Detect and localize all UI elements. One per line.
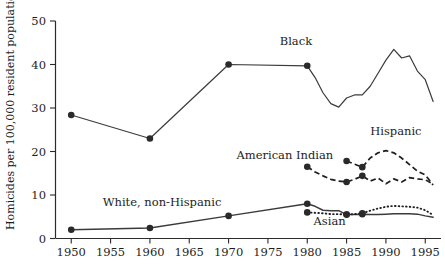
series-annotation-label: Black	[280, 34, 313, 48]
y-tick-label: 10	[31, 188, 46, 202]
data-point-marker	[225, 213, 232, 220]
x-tick-label: 1960	[135, 245, 164, 259]
y-tick-label: 40	[31, 58, 46, 72]
data-point-marker	[304, 63, 311, 70]
x-tick-label: 1980	[293, 245, 322, 259]
x-tick-label: 1975	[253, 245, 282, 259]
y-tick-label: 30	[31, 101, 46, 115]
y-axis-title: Homicides per 100,000 resident populatio…	[4, 0, 17, 230]
data-point-marker	[359, 173, 366, 180]
data-point-marker	[343, 158, 350, 165]
y-tick-label: 0	[39, 232, 46, 246]
x-axis-ticks: 1950195519601965197019751980198519901995	[57, 239, 440, 260]
series-annotation-label: Asian	[313, 214, 347, 228]
series-annotation-label: White, non-Hispanic	[103, 195, 222, 209]
series-annotation-label: American Indian	[235, 148, 333, 162]
data-point-marker	[343, 179, 350, 186]
chart-annotations-group: BlackHispanicAmerican IndianWhite, non-H…	[103, 34, 422, 229]
y-tick-label: 50	[31, 14, 46, 28]
x-tick-label: 1995	[411, 245, 440, 259]
data-point-marker	[359, 210, 366, 217]
data-point-marker	[304, 163, 311, 170]
data-point-marker	[225, 61, 232, 68]
x-tick-label: 1965	[175, 245, 204, 259]
x-tick-label: 1970	[214, 245, 243, 259]
series-annotation-label: Hispanic	[370, 124, 421, 138]
data-point-marker	[359, 164, 366, 171]
homicide-rate-line-chart: 01020304050 1950195519601965197019751980…	[0, 0, 445, 276]
y-axis-ticks: 01020304050	[31, 14, 55, 246]
data-point-marker	[68, 112, 75, 119]
y-tick-label: 20	[31, 145, 46, 159]
x-tick-label: 1955	[96, 245, 125, 259]
x-tick-label: 1950	[57, 245, 86, 259]
x-tick-label: 1985	[332, 245, 361, 259]
data-point-marker	[304, 209, 311, 216]
data-point-marker	[304, 200, 311, 207]
data-point-marker	[147, 135, 154, 142]
data-point-marker	[68, 227, 75, 234]
x-tick-label: 1990	[371, 245, 400, 259]
chart-container: 01020304050 1950195519601965197019751980…	[0, 0, 445, 276]
data-point-marker	[147, 225, 154, 232]
